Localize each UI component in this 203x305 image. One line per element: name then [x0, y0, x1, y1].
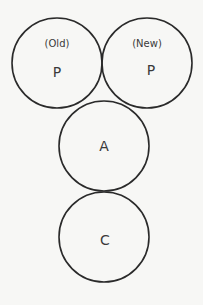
- new-p-label: P: [147, 62, 155, 78]
- circle-diagram: (Old) P (New) P A C: [0, 0, 203, 305]
- node-c: C: [59, 192, 149, 282]
- a-label: A: [99, 138, 109, 154]
- old-p-qualifier: (Old): [45, 38, 70, 49]
- node-new-p: (New) P: [102, 18, 192, 108]
- node-a: A: [59, 101, 149, 191]
- old-p-circle: [12, 18, 102, 108]
- new-p-qualifier: (New): [132, 38, 162, 49]
- old-p-label: P: [53, 64, 61, 80]
- c-label: C: [100, 232, 110, 248]
- node-old-p: (Old) P: [12, 18, 102, 108]
